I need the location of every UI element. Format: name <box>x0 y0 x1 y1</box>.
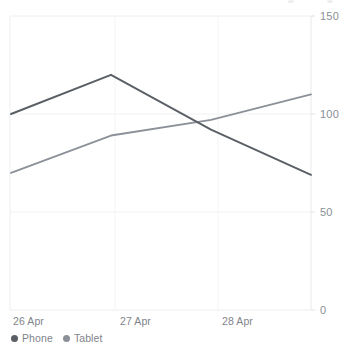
series-line-phone <box>11 75 311 175</box>
chart-canvas <box>0 0 350 351</box>
legend-dot-phone-icon <box>11 335 18 342</box>
series-line-tablet <box>11 94 311 172</box>
y-tick-label-0: 0 <box>320 305 326 316</box>
y-tick-label-100: 100 <box>320 109 339 120</box>
vertical-gridlines <box>115 16 218 310</box>
y-tick-label-50: 50 <box>320 207 333 218</box>
legend-dot-tablet-icon <box>63 335 70 342</box>
y-tick-label-150: 150 <box>320 11 339 22</box>
legend-item-phone[interactable]: Phone <box>11 333 53 344</box>
horizontal-gridlines <box>10 16 311 310</box>
x-tick-label-26-apr: 26 Apr <box>13 316 44 327</box>
legend-label-phone: Phone <box>22 333 53 344</box>
chart-legend: Phone Tablet <box>11 333 103 344</box>
x-tick-label-27-apr: 27 Apr <box>120 316 151 327</box>
legend-item-tablet[interactable]: Tablet <box>63 333 103 344</box>
line-chart: 150 100 50 0 26 Apr 27 Apr 28 Apr Phone … <box>0 0 350 351</box>
y-axis-ticks <box>311 16 315 310</box>
x-tick-label-28-apr: 28 Apr <box>222 316 253 327</box>
legend-label-tablet: Tablet <box>74 333 103 344</box>
